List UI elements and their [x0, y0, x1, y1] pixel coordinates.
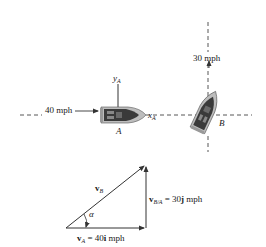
vB-subscript: B: [100, 188, 104, 194]
vBA-label: vB/A = 30j mph: [149, 194, 202, 204]
axis-x-subscript: A: [152, 115, 156, 121]
boat-A: [100, 107, 146, 123]
boat-B-label: B: [219, 118, 225, 128]
axis-y-label: yA: [113, 73, 121, 83]
relative-velocity-diagram: [0, 0, 266, 247]
vector-triangle: [66, 166, 146, 228]
vA-label: vA = 40i mph: [77, 233, 125, 243]
vB-label: vB: [95, 183, 103, 193]
angle-arc: [84, 214, 87, 227]
axis-y-subscript: A: [117, 78, 121, 84]
speed-label-A: 40 mph: [45, 105, 72, 115]
vA-unit: mph: [106, 233, 124, 243]
vA-eq: = 40: [85, 233, 104, 243]
axis-x-label: xA: [148, 110, 156, 120]
alpha-label: α: [89, 209, 94, 219]
vBA-eq: = 30: [163, 194, 182, 204]
vector-vB: [66, 166, 144, 228]
boat-A-label: A: [116, 126, 122, 136]
vBA-unit: mph: [184, 194, 202, 204]
speed-label-B: 30 mph: [193, 53, 220, 63]
vBA-subscript: B/A: [154, 199, 163, 205]
boat-B: [190, 88, 223, 135]
